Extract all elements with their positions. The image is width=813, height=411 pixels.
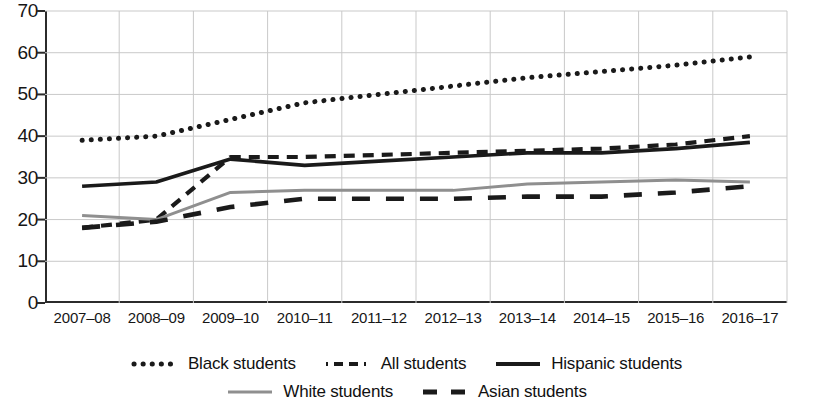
legend-row: White studentsAsian students: [0, 378, 813, 406]
x-tick-label: 2011–12: [351, 310, 407, 326]
legend-label: Hispanic students: [551, 355, 682, 373]
x-tick-label: 2007–08: [54, 310, 111, 326]
solid-swatch-icon: [494, 357, 542, 371]
legend-item-black-students[interactable]: Black students: [131, 355, 296, 373]
x-tick-label: 2016–17: [721, 310, 778, 326]
legend-item-asian-students[interactable]: Asian students: [421, 383, 587, 401]
x-tick-label: 2012–13: [425, 310, 482, 326]
gray-solid-swatch-icon: [226, 385, 274, 399]
dotted-swatch-icon: [131, 357, 179, 371]
legend-label: All students: [381, 355, 466, 373]
x-tick-label: 2010–11: [277, 310, 333, 326]
legend-label: White students: [283, 383, 393, 401]
line-chart: 010203040506070 2007–082008–092009–10201…: [0, 0, 813, 411]
x-tick-label: 2014–15: [573, 310, 630, 326]
legend-label: Black students: [188, 355, 296, 373]
dashed-swatch-icon: [324, 357, 372, 371]
legend-label: Asian students: [478, 383, 587, 401]
long-dashed-swatch-icon: [421, 385, 469, 399]
legend-item-white-students[interactable]: White students: [226, 383, 393, 401]
x-tick-label: 2015–16: [647, 310, 704, 326]
x-tick-label: 2008–09: [128, 310, 185, 326]
legend-item-hispanic-students[interactable]: Hispanic students: [494, 355, 682, 373]
x-tick-label: 2009–10: [202, 310, 259, 326]
chart-legend: Black studentsAll studentsHispanic stude…: [0, 350, 813, 406]
legend-row: Black studentsAll studentsHispanic stude…: [0, 350, 813, 378]
x-tick-label: 2013–14: [499, 310, 556, 326]
legend-item-all-students[interactable]: All students: [324, 355, 466, 373]
